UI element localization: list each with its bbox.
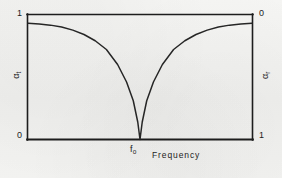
y-axis-right-label: αr — [261, 66, 271, 84]
y-axis-right-tick-top: 0 — [259, 9, 264, 18]
y-axis-left-tick-bottom: 0 — [17, 131, 22, 140]
y-axis-left-label-symbol: α — [11, 74, 21, 79]
y-axis-right-tick-bottom: 1 — [259, 131, 264, 140]
y-axis-left-label: αt — [12, 66, 22, 84]
y-axis-right-label-subscript: r — [264, 71, 271, 73]
x-axis-tick-f0: fo — [130, 145, 137, 155]
curve-alpha-t — [28, 23, 252, 139]
plot-frame — [27, 14, 253, 140]
x-axis-label: Frequency — [152, 150, 200, 160]
x-axis-tick-f0-subscript: o — [133, 148, 137, 155]
plot-canvas — [0, 0, 282, 178]
y-axis-right-label-symbol: α — [260, 74, 270, 79]
y-axis-left-tick-top: 1 — [17, 9, 22, 18]
y-axis-left-label-subscript: t — [15, 72, 22, 74]
figure-container: 1 0 0 1 αt αr fo Frequency — [0, 0, 282, 178]
